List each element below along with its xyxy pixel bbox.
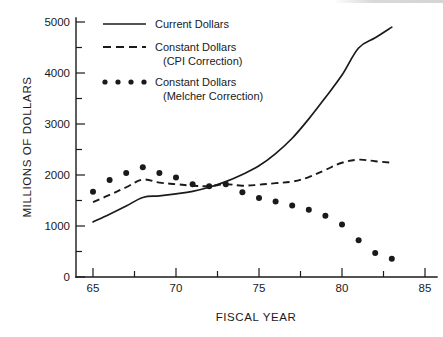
data-point (239, 189, 245, 195)
data-point (140, 164, 146, 170)
x-tick-label: 70 (170, 282, 183, 294)
chart-legend: Current Dollars Constant Dollars (CPI Co… (102, 18, 263, 102)
data-point (107, 177, 113, 183)
data-point (389, 256, 395, 262)
x-tick-label: 85 (419, 282, 432, 294)
data-point (306, 207, 312, 213)
data-point (339, 221, 345, 227)
y-tick-label: 1000 (44, 220, 70, 232)
legend-label-constant-dollars-melcher-line1: Constant Dollars (155, 76, 237, 88)
y-axis-title: MILLIONS OF DOLLARS (21, 76, 33, 217)
y-tick-label: 4000 (44, 67, 70, 79)
y-axis-ticks (76, 22, 85, 277)
data-point (372, 250, 378, 256)
data-point (256, 195, 262, 201)
x-axis-ticks (93, 268, 425, 277)
y-axis-tick-labels: 010002000300040005000 (44, 16, 70, 283)
x-tick-label: 80 (336, 282, 349, 294)
x-axis-tick-labels: 6570758085 (87, 282, 432, 294)
data-point (123, 170, 129, 176)
legend-label-current-dollars: Current Dollars (155, 18, 229, 30)
x-tick-label: 75 (253, 282, 266, 294)
data-point (173, 175, 179, 181)
y-tick-label: 2000 (44, 169, 70, 181)
legend-label-constant-dollars-cpi-line1: Constant Dollars (155, 41, 237, 53)
data-point (90, 189, 96, 195)
y-tick-label: 0 (64, 271, 70, 283)
legend-label-constant-dollars-cpi-line2: (CPI Correction) (163, 55, 242, 67)
x-axis-title: FISCAL YEAR (216, 311, 297, 323)
series-constant-dollars-cpi (93, 160, 392, 202)
y-tick-label: 5000 (44, 16, 70, 28)
data-point (206, 183, 212, 189)
chart-figure: 010002000300040005000 6570758085 MILLION… (0, 0, 443, 337)
data-point (273, 199, 279, 205)
legend-item-constant-dollars-melcher: Constant Dollars (Melcher Correction) (102, 76, 263, 102)
data-point (190, 181, 196, 187)
chart-canvas: 010002000300040005000 6570758085 MILLION… (0, 0, 443, 337)
legend-item-current-dollars: Current Dollars (103, 18, 229, 30)
y-tick-label: 3000 (44, 118, 70, 130)
legend-label-constant-dollars-melcher-line2: (Melcher Correction) (163, 90, 263, 102)
legend-swatch-dots (102, 79, 146, 84)
data-point (289, 203, 295, 209)
x-tick-label: 65 (87, 282, 100, 294)
data-point (356, 237, 362, 243)
series-constant-dollars-melcher (90, 164, 395, 261)
data-point (322, 213, 328, 219)
data-point (156, 170, 162, 176)
axis-group (76, 18, 437, 277)
legend-item-constant-dollars-cpi: Constant Dollars (CPI Correction) (103, 41, 242, 67)
data-point (223, 181, 229, 187)
